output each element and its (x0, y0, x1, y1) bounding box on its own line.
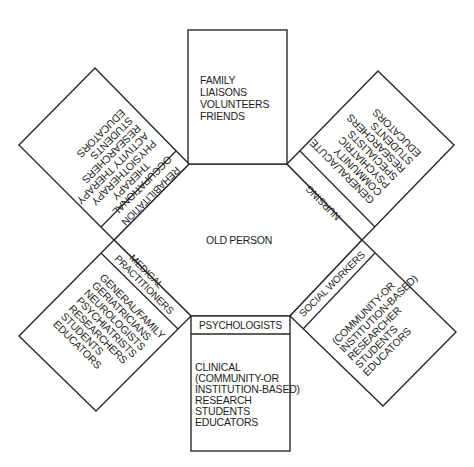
list-item: VOLUNTEERS (200, 98, 269, 110)
list-item: FRIENDS (200, 110, 245, 122)
center-label: OLD PERSON (206, 234, 272, 246)
group-box-rehabilitation: REHABILITATION OCCUPATIONAL THERAPY PHYS… (19, 68, 189, 240)
group-header: PSYCHOLOGISTS (199, 320, 283, 331)
group-box-nursing: NURSING GENERAL/ACUTE COMMUNITY PSYCHIAT… (287, 71, 454, 240)
group-box-social-workers: SOCIAL WORKERS (COMMUNITY-OR INSTITUTION… (290, 240, 456, 406)
care-network-diagram: OLD PERSON FAMILY LIAISONS VOLUNTEERS FR… (0, 0, 474, 467)
group-box-psychologists: PSYCHOLOGISTS CLINICAL (COMMUNITY-OR INS… (191, 316, 300, 451)
list-item: LIAISONS (200, 86, 247, 98)
group-box-medical-practitioners: MEDICAL PRACTITIONERS GENERAL/FAMILY GER… (19, 240, 191, 411)
list-item: EDUCATORS (195, 416, 258, 428)
group-box-family: FAMILY LIAISONS VOLUNTEERS FRIENDS (188, 30, 287, 164)
list-item: FAMILY (200, 74, 236, 86)
